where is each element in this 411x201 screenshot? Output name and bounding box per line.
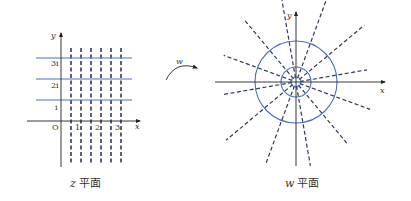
z-y-tick-2i: 2i <box>51 81 59 90</box>
z-y-tick-3i: 3i <box>51 59 59 68</box>
w-plane-caption: w平面 <box>285 177 319 190</box>
conformal-mapping-diagram: y x O 3i 2i i 1 2 3 z平面 w y x w平面 <box>0 0 411 201</box>
z-plane-caption: z平面 <box>69 177 101 190</box>
mapping-arrow: w <box>166 57 197 80</box>
z-plane: y x O 3i 2i i 1 2 3 z平面 <box>27 31 140 190</box>
mapping-label: w <box>176 57 183 66</box>
w-radial-dashed-line <box>298 85 348 145</box>
w-radial-dashed-line <box>226 84 293 140</box>
z-x-tick-1: 1 <box>75 123 80 132</box>
z-origin-label: O <box>52 123 59 132</box>
z-x-tick-3: 3 <box>115 123 120 132</box>
z-vertical-dashed-lines <box>71 48 121 164</box>
z-x-tick-2: 2 <box>95 123 100 132</box>
curved-arrow-icon <box>166 66 197 80</box>
z-y-axis-label: y <box>50 31 56 40</box>
w-radial-dashed-lines <box>223 0 370 166</box>
w-y-axis-label: y <box>286 11 292 20</box>
w-radial-dashed-line <box>266 86 295 165</box>
w-plane: y x w平面 <box>215 0 385 190</box>
z-y-tick-i: i <box>55 103 58 112</box>
z-x-axis-label: x <box>135 122 140 131</box>
w-radial-dashed-line <box>298 1 326 78</box>
w-x-axis-label: x <box>380 86 385 95</box>
